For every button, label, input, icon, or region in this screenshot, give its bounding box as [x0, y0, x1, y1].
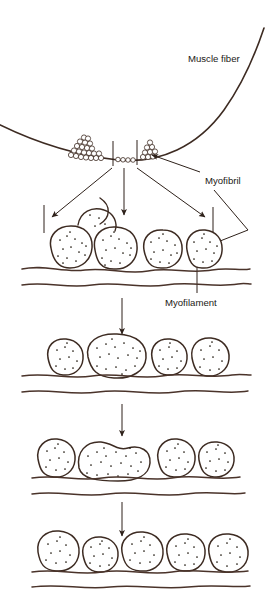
myofibril-leader-line	[152, 155, 200, 172]
magnification-level-1	[22, 209, 251, 286]
muscle-fiber-outline	[0, 28, 264, 161]
label-myofibril: Myofibril	[205, 175, 241, 186]
myofibril-cluster-left	[68, 135, 103, 161]
label-muscle-fiber: Muscle fiber	[188, 53, 241, 64]
magnification-level-2	[22, 334, 251, 393]
segment-granules	[116, 157, 136, 162]
fanout-arrow-right	[137, 168, 205, 217]
myofibril-cluster-right	[140, 140, 157, 160]
magnification-level-4	[32, 531, 250, 588]
label-myofilament: Myofilament	[165, 297, 217, 308]
myofibril-pointer-arrow	[214, 190, 248, 243]
magnification-level-3	[32, 439, 245, 495]
muscle-fiber-diagram: Muscle fiber Myofibril Myofilament	[0, 0, 272, 592]
